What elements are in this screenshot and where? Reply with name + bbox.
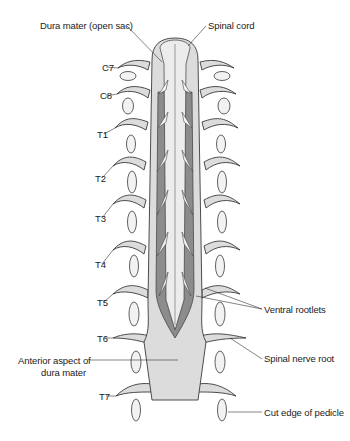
level-label-t7: T7 (99, 391, 110, 402)
label-cut-edge-pedicle: Cut edge of pedicle (264, 407, 344, 418)
level-label-c7: C7 (102, 62, 114, 73)
label-spinal-nerve-root: Spinal nerve root (264, 353, 334, 364)
level-label-t3: T3 (95, 213, 106, 224)
level-label-t6: T6 (97, 333, 108, 344)
level-label-t1: T1 (97, 129, 108, 140)
label-anterior-aspect-line2: dura mater (18, 367, 86, 378)
level-label-t5: T5 (97, 297, 108, 308)
level-label-t2: T2 (95, 173, 106, 184)
label-dura-open-sac: Dura mater (open sac) (40, 20, 133, 31)
label-spinal-cord: Spinal cord (208, 20, 254, 31)
label-anterior-aspect-line1: Anterior aspect of (18, 355, 86, 366)
label-ventral-rootlets: Ventral rootlets (264, 304, 326, 315)
level-label-c8: C8 (100, 90, 112, 101)
level-label-t4: T4 (95, 259, 106, 270)
